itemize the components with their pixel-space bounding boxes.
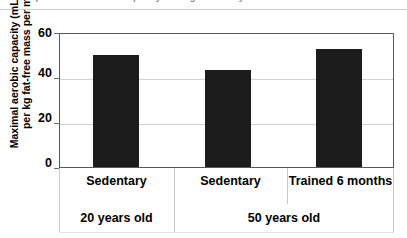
bar-0 [93, 55, 139, 168]
figure-container: Comparison of aerobic capacity among sed… [0, 0, 407, 238]
group-row: 20 years old 50 years old [59, 204, 394, 232]
group-label-0: 20 years old [59, 204, 174, 232]
y-tick-label-20: 20 [28, 112, 52, 124]
category-label-1: Sedentary [174, 168, 287, 204]
category-row: Sedentary Sedentary Trained 6 months [59, 168, 394, 204]
category-label-0: Sedentary [59, 168, 174, 204]
bar-1 [205, 70, 251, 167]
caption-divider [0, 9, 407, 10]
bar-2 [316, 49, 362, 167]
category-label-table: Sedentary Sedentary Trained 6 months 20 … [59, 168, 394, 238]
cut-off-caption-text: Comparison of aerobic capacity among sed… [14, 0, 394, 2]
group-label-1: 50 years old [174, 204, 394, 232]
cut-off-caption: Comparison of aerobic capacity among sed… [0, 0, 407, 9]
label-table-bottom-rule [59, 232, 394, 233]
y-tick-label-60: 60 [28, 27, 52, 39]
plot-area [59, 33, 394, 168]
bar-series [60, 34, 393, 167]
category-label-2: Trained 6 months [287, 168, 394, 204]
y-tick-label-0: 0 [28, 157, 52, 169]
y-tick-label-40: 40 [28, 67, 52, 79]
